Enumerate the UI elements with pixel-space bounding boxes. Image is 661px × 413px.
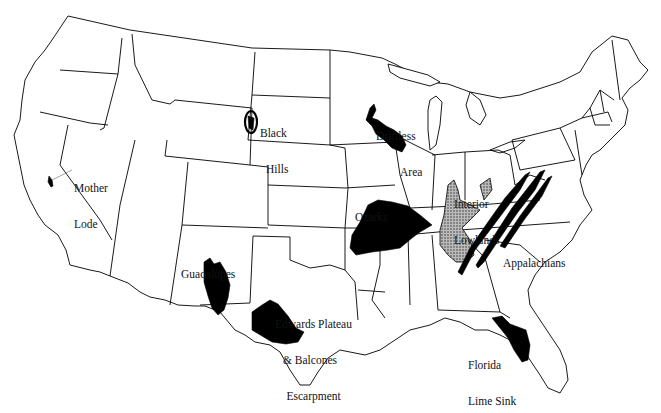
label-black-hills: Black Hills — [260, 103, 288, 187]
label-mother-lode: Mother Lode — [74, 158, 108, 242]
label-ozarks: Ozarks — [355, 187, 388, 235]
label-florida-lime-sink: Florida Lime Sink — [468, 335, 516, 413]
label-edwards-plateau: Edwards Plateau & Balcones Escarpment — [275, 294, 352, 413]
label-guadalupes: Guadalupes — [181, 244, 235, 292]
label-appalachians: Appalachians — [503, 233, 566, 281]
label-driftless-area: Driftless Area — [376, 106, 422, 190]
label-interior-lowlands: Interior Lowlands — [454, 174, 499, 258]
